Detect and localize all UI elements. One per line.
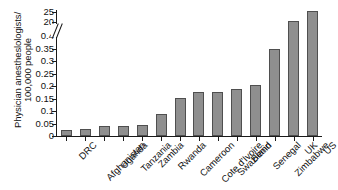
y-tick-mark	[52, 74, 56, 75]
x-axis-line	[56, 136, 322, 137]
y-tick-mark	[52, 61, 56, 62]
x-axis-tick-labels: DRCAfghanistanUgandaTanzaniaZambiaRwanda…	[57, 138, 322, 190]
bar	[175, 98, 186, 136]
bar	[193, 92, 204, 137]
bar	[307, 11, 318, 136]
y-tick-mark	[52, 22, 56, 23]
y-tick-mark	[52, 86, 56, 87]
y-tick-mark	[52, 99, 56, 100]
y-tick-mark	[52, 111, 56, 112]
y-tick-mark	[52, 136, 56, 137]
bar	[137, 125, 148, 136]
bar	[99, 126, 110, 136]
bar	[156, 114, 167, 137]
bar	[212, 92, 223, 137]
y-tick-mark	[52, 12, 56, 13]
bar	[269, 49, 280, 137]
bar	[118, 126, 129, 137]
bar	[288, 21, 299, 136]
bar	[80, 129, 91, 136]
x-tick-label: DRC	[77, 140, 98, 161]
bars-container	[57, 10, 322, 136]
y-tick-mark	[52, 49, 56, 50]
bar	[231, 89, 242, 137]
y-axis-tick-labels: 00.050.10.150.20.250.30.350.42025	[18, 10, 54, 136]
y-tick-mark	[52, 124, 56, 125]
bar	[61, 130, 72, 136]
bar	[250, 85, 261, 136]
